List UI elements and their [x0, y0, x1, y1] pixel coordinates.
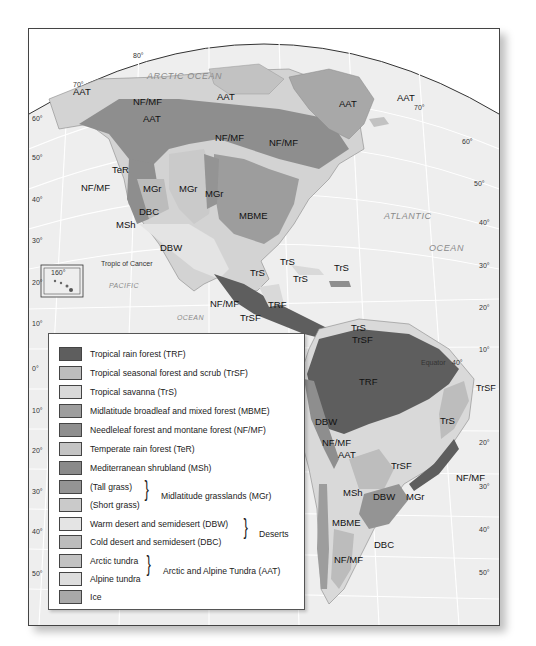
- svg-text:40°: 40°: [32, 196, 43, 203]
- inset-longitude-label: 160°: [51, 269, 66, 276]
- svg-text:NF/MF: NF/MF: [322, 437, 351, 448]
- svg-text:TrSF: TrSF: [391, 460, 412, 471]
- svg-text:50°: 50°: [32, 570, 43, 577]
- hispaniola: [329, 281, 351, 287]
- svg-text:NF/MF: NF/MF: [210, 298, 239, 309]
- svg-text:60°: 60°: [462, 138, 473, 145]
- legend-item-msh: Mediterranean shrubland (MSh): [59, 460, 211, 476]
- map-frame: ARCTIC OCEAN ATLANTIC OCEAN PACIFIC OCEA…: [28, 28, 500, 626]
- map-legend: Tropical rain forest (TRF) Tropical seas…: [48, 333, 305, 610]
- legend-swatch: [59, 572, 82, 586]
- svg-text:DBW: DBW: [315, 416, 337, 427]
- svg-text:40°: 40°: [479, 526, 490, 533]
- svg-text:DBW: DBW: [373, 491, 395, 502]
- legend-swatch: [59, 347, 82, 361]
- legend-item-nfmf: Needleleaf forest and montane forest (NF…: [59, 422, 266, 438]
- legend-swatch: [59, 517, 82, 531]
- svg-text:40°: 40°: [32, 528, 43, 535]
- atlantic-ocean-label: ATLANTIC: [383, 211, 432, 221]
- svg-text:NF/MF: NF/MF: [456, 472, 485, 483]
- svg-text:MBME: MBME: [239, 210, 268, 221]
- svg-text:AAT: AAT: [338, 449, 356, 460]
- legend-item-alpine-tundra: Alpine tundra: [59, 571, 141, 587]
- svg-text:MGr: MGr: [205, 188, 223, 199]
- svg-text:TRF: TRF: [268, 299, 287, 310]
- svg-text:MGr: MGr: [143, 183, 161, 194]
- legend-item-trs: Tropical savanna (TrS): [59, 384, 177, 400]
- svg-text:TeR: TeR: [112, 164, 129, 175]
- legend-swatch: [59, 423, 82, 437]
- legend-swatch: [59, 590, 82, 604]
- svg-text:TrS: TrS: [250, 267, 265, 278]
- svg-text:TRF: TRF: [359, 376, 378, 387]
- svg-text:TrS: TrS: [293, 273, 308, 284]
- brace-tundra: }: [146, 553, 150, 575]
- equator-longitude-label: 40°: [452, 359, 463, 366]
- svg-text:NF/MF: NF/MF: [269, 137, 298, 148]
- svg-text:20°: 20°: [32, 279, 43, 286]
- svg-text:30°: 30°: [479, 483, 490, 490]
- legend-swatch: [59, 554, 82, 568]
- svg-text:TrS: TrS: [334, 262, 349, 273]
- svg-text:DBC: DBC: [374, 539, 394, 550]
- legend-item-ice: Ice: [59, 589, 101, 605]
- svg-text:40°: 40°: [479, 219, 490, 226]
- svg-text:TrSF: TrSF: [240, 312, 261, 323]
- legend-swatch: [59, 366, 82, 380]
- tropic-of-cancer-label: Tropic of Cancer: [101, 260, 153, 268]
- legend-item-mbme: Midlatitude broadleaf and mixed forest (…: [59, 403, 270, 419]
- legend-group-grasslands: Midlatitude grasslands (MGr): [161, 491, 271, 501]
- arctic-ocean-label: ARCTIC OCEAN: [146, 71, 222, 81]
- svg-text:0°: 0°: [32, 365, 39, 372]
- svg-text:20°: 20°: [479, 439, 490, 446]
- pacific-ocean-label-2: OCEAN: [177, 314, 204, 321]
- atlantic-ocean-label-2: OCEAN: [429, 243, 464, 253]
- equator-label: Equator: [421, 359, 446, 367]
- svg-text:MSh: MSh: [116, 219, 136, 230]
- svg-text:AAT: AAT: [339, 98, 357, 109]
- legend-swatch: [59, 535, 82, 549]
- svg-text:AAT: AAT: [217, 91, 235, 102]
- svg-text:70°: 70°: [414, 104, 425, 111]
- svg-text:10°: 10°: [32, 407, 43, 414]
- svg-text:10°: 10°: [32, 320, 43, 327]
- svg-text:80°: 80°: [133, 52, 144, 59]
- svg-text:DBW: DBW: [160, 242, 182, 253]
- pacific-ocean-label: PACIFIC: [109, 282, 139, 289]
- svg-text:AAT: AAT: [397, 92, 415, 103]
- svg-text:50°: 50°: [479, 569, 490, 576]
- legend-item-short-grass: (Short grass): [59, 497, 140, 513]
- svg-text:10°: 10°: [479, 346, 490, 353]
- svg-text:AAT: AAT: [143, 113, 161, 124]
- svg-text:30°: 30°: [32, 488, 43, 495]
- legend-swatch: [59, 385, 82, 399]
- svg-text:30°: 30°: [32, 237, 43, 244]
- svg-text:AAT: AAT: [73, 86, 91, 97]
- legend-swatch: [59, 442, 82, 456]
- svg-text:20°: 20°: [32, 447, 43, 454]
- svg-text:30°: 30°: [479, 262, 490, 269]
- svg-text:MBME: MBME: [332, 517, 361, 528]
- brace-grasslands: }: [144, 478, 148, 500]
- svg-text:DBC: DBC: [139, 206, 159, 217]
- svg-text:60°: 60°: [32, 115, 43, 122]
- svg-text:NF/MF: NF/MF: [215, 132, 244, 143]
- svg-text:20°: 20°: [479, 304, 490, 311]
- svg-text:NF/MF: NF/MF: [81, 182, 110, 193]
- legend-swatch: [59, 461, 82, 475]
- legend-swatch: [59, 480, 82, 494]
- legend-item-tall-grass: (Tall grass): [59, 479, 132, 495]
- legend-swatch: [59, 404, 82, 418]
- svg-text:NF/MF: NF/MF: [133, 96, 162, 107]
- legend-group-deserts: Deserts: [259, 529, 289, 539]
- svg-text:MGr: MGr: [179, 183, 197, 194]
- svg-text:TrS: TrS: [280, 256, 295, 267]
- legend-item-dbw: Warm desert and semidesert (DBW): [59, 516, 228, 532]
- legend-item-trf: Tropical rain forest (TRF): [59, 346, 186, 362]
- legend-item-ter: Temperate rain forest (TeR): [59, 441, 195, 457]
- svg-text:TrS: TrS: [440, 415, 455, 426]
- svg-text:MGr: MGr: [406, 491, 424, 502]
- legend-group-tundra: Arctic and Alpine Tundra (AAT): [163, 566, 280, 576]
- svg-text:50°: 50°: [474, 180, 485, 187]
- legend-item-dbc: Cold desert and semidesert (DBC): [59, 534, 221, 550]
